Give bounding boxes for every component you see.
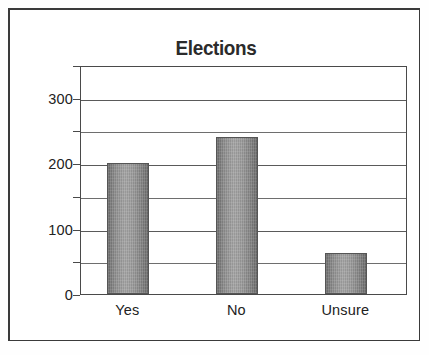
bar-texture xyxy=(108,164,148,293)
bar-unsure xyxy=(325,253,367,294)
bar-yes xyxy=(107,163,149,294)
figure-border-frame: Elections 0100200300 YesNoUnsure xyxy=(8,8,420,341)
y-axis-tick-200 xyxy=(73,164,80,165)
x-axis-label-group: YesNoUnsure xyxy=(80,302,407,330)
gridline-300 xyxy=(81,100,406,101)
x-axis-label-yes: Yes xyxy=(115,302,139,318)
y-axis-label-group: 0100200300 xyxy=(10,66,73,295)
y-axis-tick-300 xyxy=(73,99,80,100)
bar-no xyxy=(216,137,258,294)
figure-root: Elections 0100200300 YesNoUnsure xyxy=(0,0,429,355)
y-axis-label-100: 100 xyxy=(13,222,73,238)
bar-texture xyxy=(326,254,366,293)
y-axis-tick-100 xyxy=(73,230,80,231)
bar-texture xyxy=(217,138,257,293)
gridline-250 xyxy=(81,132,406,133)
y-axis-tick-350 xyxy=(73,66,80,67)
y-axis-label-200: 200 xyxy=(13,156,73,172)
y-axis-tick-250 xyxy=(73,131,80,132)
x-axis-label-no: No xyxy=(227,302,246,318)
x-axis-label-unsure: Unsure xyxy=(321,302,369,318)
y-axis-label-300: 300 xyxy=(13,91,73,107)
y-axis-tick-0 xyxy=(73,295,80,296)
y-axis-tick-150 xyxy=(73,197,80,198)
y-axis-label-0: 0 xyxy=(13,287,73,303)
y-axis-tick-50 xyxy=(73,262,80,263)
chart-title: Elections xyxy=(31,36,402,60)
plot-area xyxy=(80,66,407,295)
